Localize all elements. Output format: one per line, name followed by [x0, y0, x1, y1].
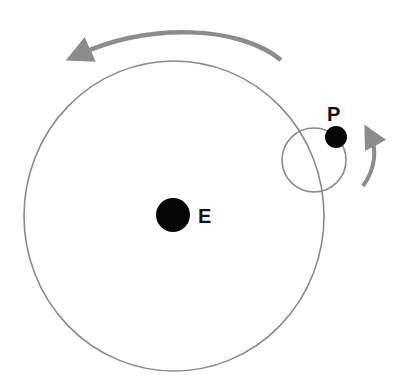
deferent-direction-arrow [78, 32, 281, 60]
earth-label: E [198, 205, 211, 227]
planet-body [325, 126, 347, 148]
epicycle-direction-arrow [363, 135, 374, 186]
planet-label: P [327, 103, 340, 125]
epicycle-diagram: E P [0, 0, 403, 391]
earth-body [156, 198, 190, 232]
